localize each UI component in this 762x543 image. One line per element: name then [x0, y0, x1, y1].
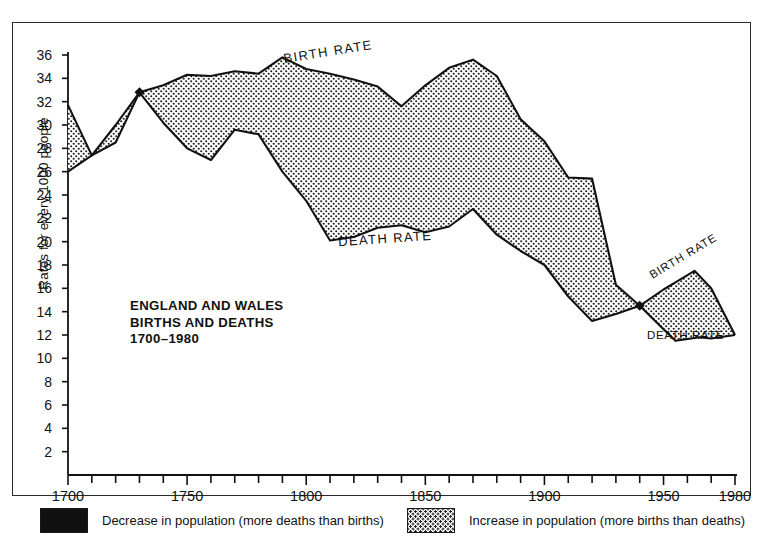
x-tick-1750: 1750 — [157, 489, 217, 504]
y-tick-22: 22 — [26, 211, 52, 225]
legend-item-increase: Increase in population (more births than… — [407, 508, 745, 533]
y-tick-26: 26 — [26, 165, 52, 179]
y-tick-16: 16 — [26, 281, 52, 295]
y-tick-36: 36 — [26, 48, 52, 62]
x-tick-1950: 1950 — [634, 489, 694, 504]
y-tick-20: 20 — [26, 235, 52, 249]
y-tick-32: 32 — [26, 95, 52, 109]
y-tick-30: 30 — [26, 118, 52, 132]
chart-page: Rates for every 1000 people 246810121416… — [0, 0, 762, 543]
increase-swatch-icon — [407, 508, 455, 533]
y-tick-34: 34 — [26, 71, 52, 85]
legend-increase-text: Increase in population (more births than… — [469, 513, 745, 528]
decrease-swatch-icon — [40, 508, 88, 533]
legend: Decrease in population (more deaths than… — [0, 505, 762, 537]
x-tick-1700: 1700 — [38, 489, 98, 504]
legend-decrease-text: Decrease in population (more deaths than… — [102, 513, 384, 528]
y-tick-14: 14 — [26, 305, 52, 319]
y-tick-12: 12 — [26, 328, 52, 342]
x-tick-1980: 1980 — [705, 489, 762, 504]
y-tick-10: 10 — [26, 351, 52, 365]
y-tick-2: 2 — [26, 445, 52, 459]
y-tick-24: 24 — [26, 188, 52, 202]
y-tick-4: 4 — [26, 421, 52, 435]
y-tick-28: 28 — [26, 141, 52, 155]
chart-title: ENGLAND AND WALES BIRTHS AND DEATHS 1700… — [130, 298, 283, 348]
y-tick-6: 6 — [26, 398, 52, 412]
death-rate-label-right: DEATH RATE — [647, 329, 724, 341]
x-tick-1900: 1900 — [514, 489, 574, 504]
x-tick-1850: 1850 — [395, 489, 455, 504]
y-tick-8: 8 — [26, 375, 52, 389]
y-tick-18: 18 — [26, 258, 52, 272]
x-tick-1800: 1800 — [276, 489, 336, 504]
legend-item-decrease: Decrease in population (more deaths than… — [40, 508, 384, 533]
